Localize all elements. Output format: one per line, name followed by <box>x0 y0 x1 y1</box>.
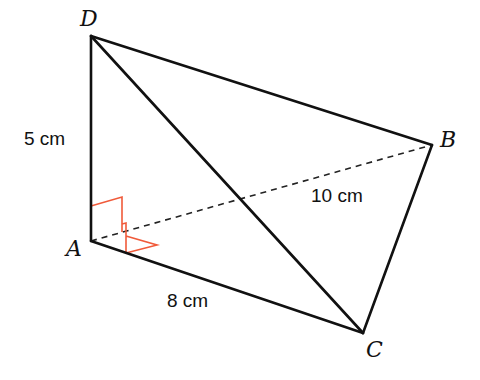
vertex-label-d: D <box>79 6 98 31</box>
vertex-label-c: C <box>366 337 383 362</box>
tetrahedron-diagram: D A B C 5 cm 10 cm 8 cm <box>0 0 480 380</box>
edge-bc <box>363 145 432 333</box>
vertex-label-a: A <box>64 236 82 261</box>
length-label-ab: 10 cm <box>311 185 363 206</box>
right-angle-marker-dab <box>91 197 122 232</box>
right-angle-marker-bac <box>126 232 157 253</box>
length-label-ad: 5 cm <box>24 128 65 149</box>
length-label-ac: 8 cm <box>167 290 208 311</box>
vertex-label-b: B <box>439 127 456 152</box>
edge-ab-hidden <box>91 145 432 241</box>
